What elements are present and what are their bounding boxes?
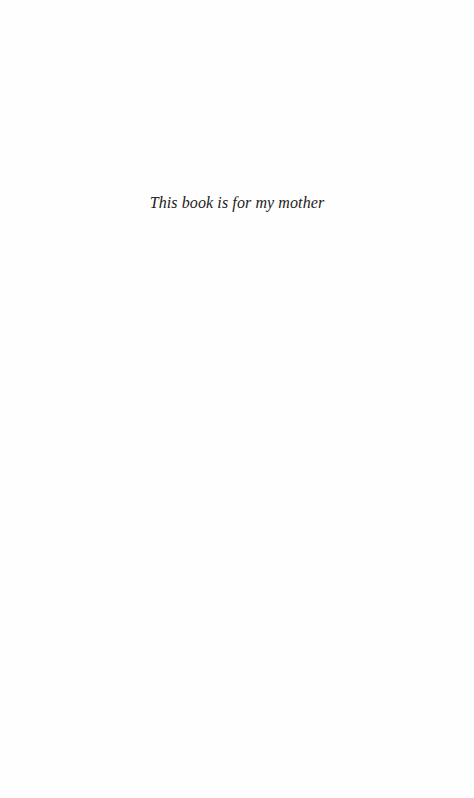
dedication-text: This book is for my mother <box>0 194 474 212</box>
book-page: This book is for my mother <box>0 0 474 798</box>
